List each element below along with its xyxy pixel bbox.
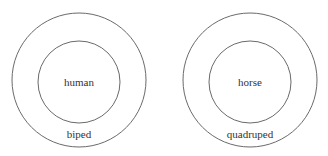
diagram-canvas: human biped horse quadruped	[0, 0, 328, 156]
inner-label-human: human	[64, 76, 94, 88]
group-quadruped: horse quadruped	[183, 13, 317, 147]
inner-label-horse: horse	[238, 76, 262, 88]
outer-label-quadruped: quadruped	[227, 128, 274, 140]
group-biped: human biped	[12, 13, 146, 147]
outer-label-biped: biped	[67, 128, 92, 140]
